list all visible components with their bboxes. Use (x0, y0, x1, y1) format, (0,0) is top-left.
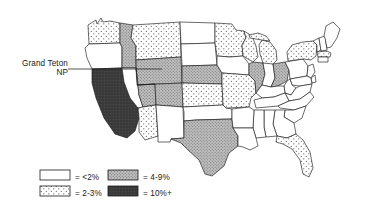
state-sd (181, 43, 217, 66)
state-mi (259, 40, 277, 66)
state-mn (215, 23, 246, 57)
state-nm (156, 105, 184, 142)
state-me (324, 22, 340, 48)
legend-label-lt2: = <2% (75, 173, 99, 182)
state-ok (183, 105, 232, 121)
state-fl (276, 134, 313, 177)
state-nd (180, 22, 215, 44)
choropleth-figure: = <2% = 2-3% = 4-9% = 10%+ Grand Teton N… (0, 0, 370, 212)
state-ks (182, 83, 223, 107)
state-mo (222, 73, 256, 108)
state-ny (287, 41, 317, 61)
us-choropleth-map: = <2% = 2-3% = 4-9% = 10%+ (0, 0, 370, 212)
state-or (85, 43, 122, 69)
state-ma (317, 51, 331, 57)
legend-swatch-p4-9 (108, 170, 138, 180)
annotation-grand-teton-np: Grand Teton NP (2, 59, 68, 78)
legend-swatch-lt2 (40, 170, 70, 180)
state-ar (232, 107, 254, 128)
state-mt (131, 22, 181, 60)
legend-label-p4-9: = 4-9% (143, 173, 170, 182)
legend-label-p2-3: = 2-3% (75, 189, 102, 198)
legend-swatch-p10plus (108, 186, 138, 196)
state-wa (88, 18, 120, 44)
state-wy (136, 57, 182, 85)
state-az (138, 105, 158, 140)
state-ne (182, 65, 222, 84)
legend: = <2% = 2-3% = 4-9% = 10%+ (40, 170, 172, 198)
legend-swatch-p2-3 (40, 186, 70, 196)
state-ia (217, 56, 249, 75)
state-ct (318, 57, 328, 62)
legend-label-p10plus: = 10%+ (143, 189, 172, 198)
state-pa (285, 59, 308, 79)
